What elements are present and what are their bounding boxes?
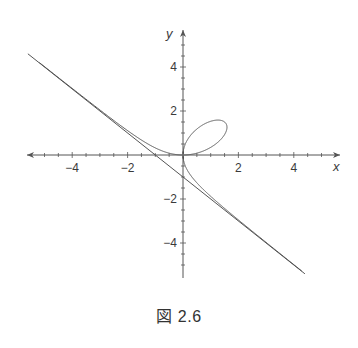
y-tick-label: −4	[163, 236, 177, 250]
x-tick-label: −4	[65, 161, 79, 175]
plot-area: −4−224−4−224 x y	[0, 0, 358, 300]
figure-caption: 図 2.6	[0, 303, 358, 327]
y-tick-label: 4	[170, 60, 177, 74]
folium-curve-loop-and-lower-branch	[39, 63, 227, 155]
folium-curve-upper-branch	[183, 156, 302, 271]
figure: −4−224−4−224 x y 図 2.6	[0, 0, 358, 348]
y-tick-label: −2	[163, 192, 177, 206]
x-tick-label: 4	[290, 161, 297, 175]
x-tick-label: 2	[235, 161, 242, 175]
x-axis-label: x	[332, 159, 340, 174]
y-axis-label: y	[165, 26, 174, 41]
x-tick-label: −2	[121, 161, 135, 175]
y-tick-label: 2	[170, 104, 177, 118]
